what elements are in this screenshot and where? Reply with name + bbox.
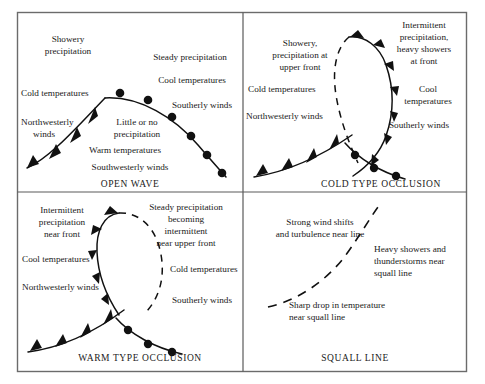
annot-intermittent-precipitation-line4: at front (411, 56, 438, 66)
annot-intermittent-precip-near-front-line2: precipitation (39, 217, 86, 227)
annot-cold-temperatures-2: Cold temperatures (248, 84, 316, 94)
annot-showery-precip-upper-front-line3: upper front (279, 62, 321, 72)
annot-intermittent-precipitation-line3: heavy showers (397, 44, 452, 54)
panel-title-open-wave: OPEN WAVE (101, 179, 160, 189)
annot-cold-temperatures-3: Cold temperatures (170, 264, 238, 274)
panel-title-warm-type-occlusion: WARM TYPE OCCLUSION (78, 353, 202, 363)
annot-cool-temperatures-3: Cool temperatures (22, 254, 90, 264)
annot-heavy-showers-thunderstorms-line2: thunderstorms near (374, 256, 445, 266)
annot-cool-temperatures-2-line2: temperatures (404, 96, 452, 106)
annot-cool-temperatures: Cool temperatures (158, 75, 226, 85)
annot-showery-precip-upper-front: Showery, (283, 38, 317, 48)
annot-steady-precipitation: Steady precipitation (153, 52, 227, 62)
annot-northwesterly-winds: Northwesterly (21, 117, 74, 127)
annot-showery-precipitation: Showery (52, 34, 85, 44)
annot-showery-precipitation-line2: precipitation (45, 46, 92, 56)
annot-southerly-winds: Southerly winds (172, 100, 232, 110)
annot-strong-wind-shifts-line2: and turbulence near line (276, 229, 365, 239)
annot-little-or-no-precipitation: Little or no (116, 117, 158, 127)
annot-strong-wind-shifts: Strong wind shifts (286, 217, 354, 227)
annot-steady-precip-becoming: Steady precipitation (149, 202, 223, 212)
annot-steady-precip-becoming-line3: intermittent (165, 226, 208, 236)
annot-intermittent-precipitation: Intermittent (402, 20, 446, 30)
annot-warm-temperatures: Warm temperatures (89, 145, 161, 155)
annot-sharp-drop-in-temperature-line2: near squall line (289, 312, 345, 322)
panel-title-cold-type-occlusion: COLD TYPE OCCLUSION (321, 179, 441, 189)
annot-southwesterly-winds: Southwesterly winds (92, 162, 169, 172)
annot-intermittent-precip-near-front-line3: near front (44, 229, 80, 239)
annot-showery-precip-upper-front-line2: precipitation at (272, 50, 328, 60)
annot-steady-precip-becoming-line2: becoming (168, 214, 205, 224)
annot-southerly-winds-2: Southerly winds (389, 120, 449, 130)
annot-northwesterly-winds-2: Northwesterly winds (246, 111, 323, 121)
panel-title-squall-line: SQUALL LINE (321, 353, 389, 363)
annot-sharp-drop-in-temperature: Sharp drop in temperature (289, 300, 385, 310)
annot-heavy-showers-thunderstorms: Heavy showers and (374, 244, 446, 254)
annot-intermittent-precipitation-line2: precipitation, (400, 32, 449, 42)
annot-heavy-showers-thunderstorms-line3: squall line (374, 268, 412, 278)
annot-northwesterly-winds-line2: winds (33, 129, 55, 139)
weather-front-diagram: Showery precipitation Cold temperatures … (0, 0, 485, 384)
annot-northwesterly-winds-3: Northwesterly winds (22, 282, 99, 292)
annot-cool-temperatures-2: Cool (419, 84, 437, 94)
annot-southerly-winds-3: Southerly winds (172, 295, 232, 305)
annot-cold-temperatures: Cold temperatures (21, 88, 89, 98)
annot-little-or-no-precipitation-line2: precipitation (114, 129, 161, 139)
annot-steady-precip-becoming-line4: near upper front (156, 238, 216, 248)
annot-intermittent-precip-near-front: Intermittent (40, 205, 84, 215)
